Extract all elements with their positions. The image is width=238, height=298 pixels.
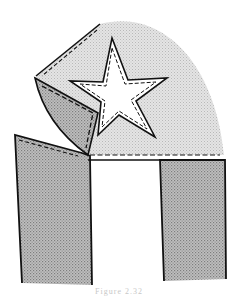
left-panel: [15, 135, 92, 285]
fabric-fold-illustration: [0, 0, 238, 298]
right-panel: [160, 160, 226, 281]
figure-caption: Figure 2.32: [0, 287, 238, 296]
